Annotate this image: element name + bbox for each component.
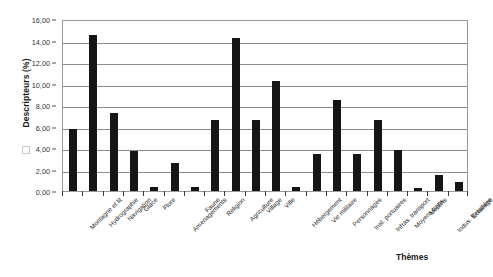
bar (130, 151, 138, 191)
y-tick-label: 10,00 (10, 80, 50, 89)
y-tick-label: 14,00 (10, 37, 50, 46)
bar (435, 175, 443, 191)
y-tick-mark (52, 106, 56, 107)
bar (69, 129, 77, 191)
y-tick-mark (52, 127, 56, 128)
bar (333, 100, 341, 191)
y-tick-mark (52, 192, 56, 193)
y-tick-label: 12,00 (10, 59, 50, 68)
y-tick-label: 4,00 (10, 145, 50, 154)
x-category-label: Ville (283, 196, 296, 209)
bar (455, 182, 463, 191)
y-axis-ticks: 0,002,004,006,008,0010,0012,0014,0016,00 (14, 20, 56, 192)
bar-series (63, 21, 467, 191)
bar (110, 113, 118, 191)
y-tick-label: 0,00 (10, 188, 50, 197)
y-tick-mark (52, 149, 56, 150)
bar (232, 38, 240, 191)
bar (374, 120, 382, 191)
y-tick-mark (52, 170, 56, 171)
x-axis-title: Thèmes (396, 252, 428, 262)
y-tick-mark (52, 20, 56, 21)
bar (252, 120, 260, 191)
bar (89, 35, 97, 191)
bar (171, 163, 179, 191)
y-tick-mark (52, 63, 56, 64)
bar (211, 120, 219, 191)
y-tick-label: 8,00 (10, 102, 50, 111)
bar (313, 154, 321, 191)
y-tick-mark (52, 84, 56, 85)
bar (394, 150, 402, 191)
x-category-label: Religion (225, 196, 246, 217)
x-category-label: Éclairage (470, 196, 493, 220)
y-tick-label: 16,00 (10, 16, 50, 25)
y-tick-label: 6,00 (10, 123, 50, 132)
y-tick-mark (52, 41, 56, 42)
scan-artifact-marker (22, 146, 30, 154)
plot-area (62, 20, 468, 192)
bar (272, 81, 280, 191)
y-tick-label: 2,00 (10, 166, 50, 175)
bar (353, 154, 361, 191)
x-category-label: Flore (162, 196, 177, 211)
